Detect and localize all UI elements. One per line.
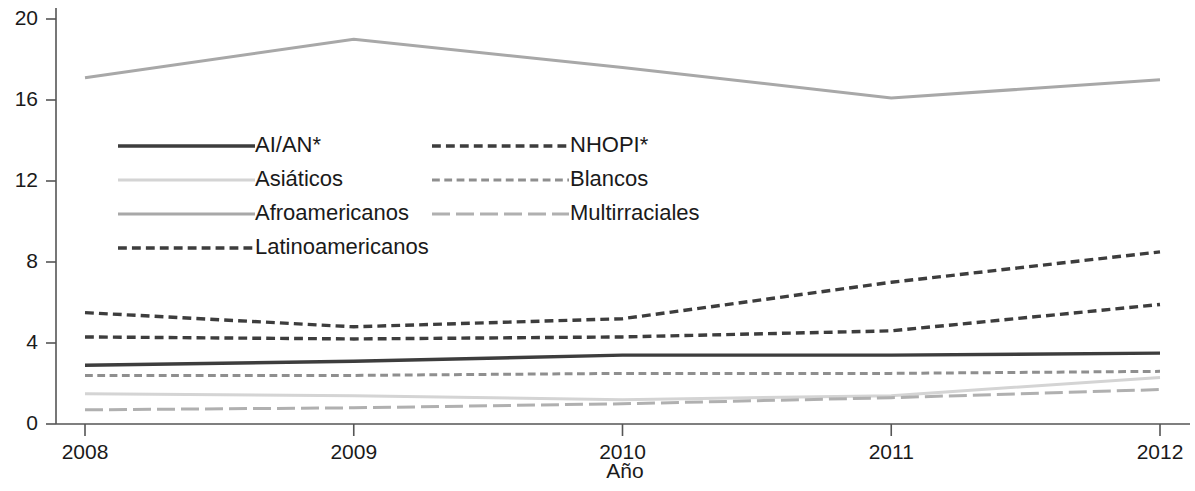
y-tick-group: 048121620 — [15, 6, 56, 434]
legend-label: Blancos — [570, 166, 648, 191]
x-tick-group: 20082009201020112012 — [62, 424, 1184, 463]
x-tick-label: 2008 — [62, 440, 109, 463]
chart-canvas: 048121620 20082009201020112012 Año AI/AN… — [0, 0, 1195, 491]
series-line — [85, 252, 1160, 327]
legend-label: Multirraciales — [570, 200, 700, 225]
y-tick-label: 16 — [15, 87, 38, 110]
x-tick-label: 2011 — [869, 440, 914, 463]
y-tick-label: 20 — [15, 6, 38, 29]
y-tick-label: 8 — [26, 249, 38, 272]
y-tick-label: 0 — [26, 411, 38, 434]
series-line — [85, 371, 1160, 375]
series-line — [85, 353, 1160, 365]
y-tick-label: 4 — [26, 330, 38, 353]
x-axis-title: Año — [606, 459, 643, 482]
legend-label: Latinoamericanos — [255, 234, 429, 259]
line-chart-figure: 048121620 20082009201020112012 Año AI/AN… — [0, 0, 1195, 491]
legend-label: Afroamericanos — [255, 200, 409, 225]
legend-label: Asiáticos — [255, 166, 343, 191]
y-tick-label: 12 — [15, 168, 38, 191]
series-line — [85, 39, 1160, 98]
series-line — [85, 377, 1160, 399]
legend-group: AI/AN*AsiáticosAfroamericanosLatinoameri… — [118, 132, 700, 259]
legend-label: NHOPI* — [570, 132, 649, 157]
legend-label: AI/AN* — [255, 132, 321, 157]
x-tick-label: 2012 — [1137, 440, 1184, 463]
x-tick-label: 2009 — [330, 440, 377, 463]
